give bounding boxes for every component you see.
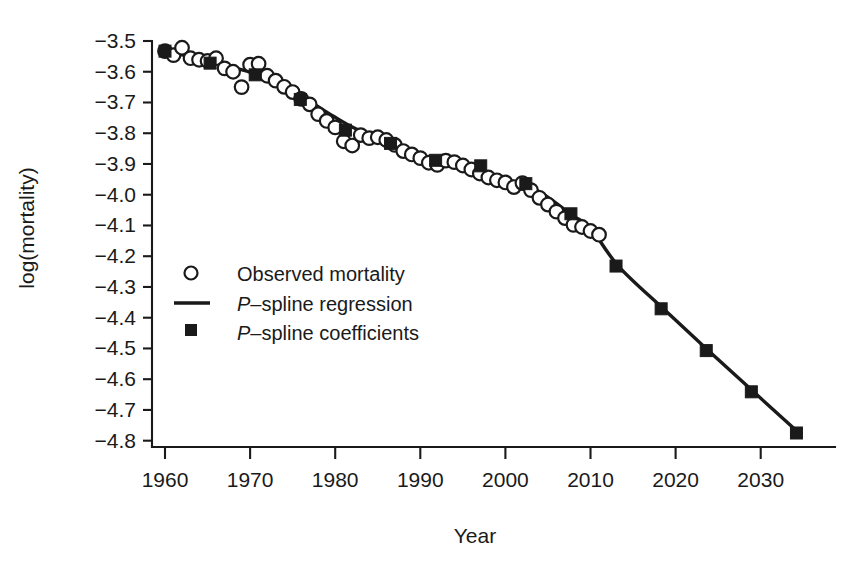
legend-rest-coefficients: –spline coefficients xyxy=(250,322,419,344)
y-tick-label: −4.4 xyxy=(95,306,137,329)
x-tick-label: 2020 xyxy=(652,468,699,491)
legend-italic-p-regression: P xyxy=(237,293,251,315)
legend-rest-regression: –spline regression xyxy=(250,293,412,315)
legend-label-p-spline-regression: P–spline regression xyxy=(237,293,413,315)
legend-label-p-spline-coefficients: P–spline coefficients xyxy=(237,322,419,344)
p-spline-coefficient-point xyxy=(520,178,532,190)
p-spline-coefficient-point xyxy=(610,260,622,272)
y-tick-label: −4.3 xyxy=(95,275,136,298)
axis-lines xyxy=(152,41,835,447)
p-spline-coefficient-point xyxy=(339,124,351,136)
observed-mortality-points xyxy=(158,41,606,242)
legend-marker-open-circle-icon xyxy=(185,267,198,280)
chart-figure: −3.5−3.6−3.7−3.8−3.9−4.0−4.1−4.2−4.3−4.4… xyxy=(0,0,854,581)
x-tick-label: 1980 xyxy=(312,468,359,491)
y-axis-title: log(mortality) xyxy=(15,167,38,288)
observed-mortality-point xyxy=(592,228,606,242)
p-spline-regression-line xyxy=(165,51,799,433)
legend-label-observed-mortality: Observed mortality xyxy=(237,263,405,285)
y-tick-label: −4.5 xyxy=(95,336,136,359)
x-tick-label: 1960 xyxy=(142,468,189,491)
p-spline-coefficient-point xyxy=(745,386,757,398)
y-tick-label: −4.0 xyxy=(95,183,136,206)
p-spline-coefficient-point xyxy=(159,45,171,57)
x-tick-label: 1970 xyxy=(227,468,274,491)
y-tick-label: −4.2 xyxy=(95,244,136,267)
mortality-spline-chart: −3.5−3.6−3.7−3.8−3.9−4.0−4.1−4.2−4.3−4.4… xyxy=(0,0,854,581)
y-tick-label: −4.6 xyxy=(95,367,136,390)
observed-mortality-point xyxy=(226,65,240,79)
y-axis-ticks: −3.5−3.6−3.7−3.8−3.9−4.0−4.1−4.2−4.3−4.4… xyxy=(95,29,152,452)
x-tick-label: 1990 xyxy=(397,468,444,491)
y-tick-label: −3.5 xyxy=(95,29,136,52)
p-spline-coefficient-point xyxy=(385,137,397,149)
p-spline-coefficient-point xyxy=(475,160,487,172)
p-spline-coefficient-point xyxy=(294,93,306,105)
p-spline-coefficient-point xyxy=(655,303,667,315)
legend-italic-p-coefficients: P xyxy=(237,322,251,344)
observed-mortality-point xyxy=(235,80,249,94)
p-spline-coefficient-point xyxy=(204,57,216,69)
y-tick-label: −3.8 xyxy=(95,121,136,144)
x-tick-label: 2010 xyxy=(567,468,614,491)
p-spline-coefficient-point xyxy=(790,427,802,439)
chart-legend: Observed mortality P–spline regression P… xyxy=(174,263,419,344)
legend-marker-filled-square-icon xyxy=(186,325,197,336)
x-axis-title: Year xyxy=(454,524,496,547)
p-spline-coefficient-points xyxy=(159,45,802,439)
x-axis-ticks: 19601970198019902000201020202030 xyxy=(142,447,784,491)
p-spline-coefficient-point xyxy=(430,154,442,166)
y-tick-label: −4.1 xyxy=(95,213,136,236)
y-tick-label: −3.7 xyxy=(95,90,136,113)
y-tick-label: −3.6 xyxy=(95,60,136,83)
x-tick-label: 2000 xyxy=(482,468,529,491)
y-tick-label: −3.9 xyxy=(95,152,136,175)
p-spline-coefficient-point xyxy=(700,345,712,357)
y-tick-label: −4.8 xyxy=(95,429,136,452)
x-tick-label: 2030 xyxy=(737,468,784,491)
y-tick-label: −4.7 xyxy=(95,398,136,421)
p-spline-coefficient-point xyxy=(249,69,261,81)
p-spline-coefficient-point xyxy=(565,208,577,220)
